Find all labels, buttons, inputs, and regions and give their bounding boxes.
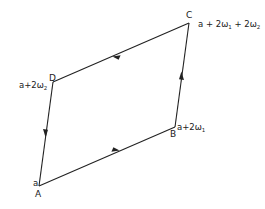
value-label-c-part1: a + 2ω: [198, 19, 228, 29]
vertex-label-d: D: [49, 73, 56, 83]
arrow-da-icon: [43, 129, 48, 137]
parallelogram-diagram: A B C D a a+2ω1 a + 2ω1 + 2ω2 a+2ω2: [0, 0, 265, 209]
value-label-b-main: a+2ω: [177, 122, 202, 132]
vertex-label-a: A: [35, 189, 42, 199]
value-label-b: a+2ω1: [177, 122, 205, 133]
value-label-c-sub2: 2: [257, 24, 261, 30]
edge-ab: [39, 127, 175, 186]
vertex-label-b: B: [170, 129, 176, 139]
value-label-d-sub: 2: [44, 85, 48, 91]
vertex-label-c: C: [186, 10, 192, 20]
value-label-c-part2: + 2ω: [232, 19, 257, 29]
value-label-d: a+2ω2: [19, 80, 47, 91]
value-label-b-sub: 1: [202, 127, 206, 133]
value-label-a: a: [33, 178, 38, 188]
arrow-bc-icon: [179, 72, 184, 80]
edge-cd: [53, 23, 189, 82]
value-label-d-main: a+2ω: [19, 80, 44, 90]
value-label-c: a + 2ω1 + 2ω2: [198, 19, 260, 30]
